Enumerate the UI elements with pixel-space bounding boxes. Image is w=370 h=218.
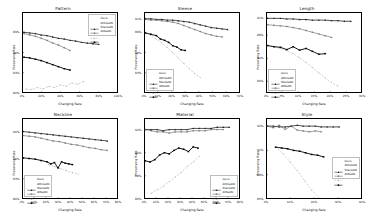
plot-area: Ours AttnGAN StarGAN AttGAN: [144, 118, 240, 199]
x-tick-label: 30%: [55, 200, 61, 204]
legend-label-attgan: AttGAN: [101, 29, 112, 33]
y-tick-label: 91%: [257, 16, 263, 20]
legend-swatch-attgan-icon: [27, 190, 36, 194]
legend-label-attgan: AttGAN: [345, 172, 356, 176]
y-tick-label: 90%: [13, 130, 19, 134]
y-axis-label: Preserving Rate: [12, 150, 16, 175]
legend-swatch-attgan-icon: [334, 172, 343, 176]
x-tick-label: 70%: [225, 200, 231, 204]
chart-panel-pattern: Pattern80%83%86%89%Preserving Rate Ours …: [2, 4, 124, 110]
chart-panel-sleeve: Sleeve83%86%89%91%Preserving Rate Ours A…: [124, 4, 246, 110]
plot-area: Ours AttnGAN StarGAN AttGAN: [266, 12, 362, 93]
x-tick-label: 10%: [153, 200, 159, 204]
y-axis-label: Preserving Rate: [12, 44, 16, 69]
x-tick-label: 10%: [287, 200, 293, 204]
x-tick-label: 50%: [79, 200, 85, 204]
legend: Ours AttnGAN StarGAN AttGAN: [332, 157, 360, 179]
y-tick-label: 89%: [13, 30, 19, 34]
x-tick-label: 10%: [295, 94, 301, 98]
x-axis-ticks: 0%10%20%30%40%: [266, 200, 362, 205]
x-axis-ticks: 0%10%20%30%40%50%60%70%80%: [144, 200, 240, 205]
x-tick-label: 40%: [67, 200, 73, 204]
legend-swatch-attgan-icon: [149, 84, 158, 88]
x-tick-label: 20%: [165, 200, 171, 204]
panel-title: Length: [246, 6, 368, 11]
x-tick-label: 15%: [311, 94, 317, 98]
x-tick-label: 60%: [91, 200, 97, 204]
x-tick-label: 60%: [213, 200, 219, 204]
panel-title: Neckline: [2, 112, 124, 117]
x-axis-label: Changing Rate: [266, 102, 362, 106]
chart-panel-style: Style85%88%91%94%Preserving Rate Ours At…: [246, 110, 368, 216]
legend: Ours AttnGAN StarGAN AttGAN: [146, 69, 174, 91]
legend-item-attgan: AttGAN: [212, 190, 235, 194]
legend-item-attgan: AttGAN: [149, 84, 172, 88]
panel-title: Sleeve: [124, 6, 246, 11]
legend: Ours AttnGAN StarGAN AttGAN: [268, 69, 296, 91]
figure-grid: Pattern80%83%86%89%Preserving Rate Ours …: [0, 0, 370, 218]
y-tick-label: 85%: [257, 197, 263, 201]
plot-area: Ours AttnGAN StarGAN AttGAN: [22, 118, 118, 199]
x-tick-label: 40%: [189, 200, 195, 204]
x-axis-ticks: 0%20%40%60%80%100%: [22, 94, 118, 99]
plot-area: Ours AttnGAN StarGAN AttGAN: [266, 118, 362, 199]
x-tick-label: 40%: [359, 200, 365, 204]
x-tick-label: 0%: [142, 94, 147, 98]
legend-swatch-attgan-icon: [271, 84, 280, 88]
x-tick-label: 50%: [201, 200, 207, 204]
legend-swatch-attgan-icon: [90, 29, 99, 33]
x-tick-label: 80%: [237, 200, 243, 204]
x-axis-label: Changing Rate: [144, 102, 240, 106]
y-tick-label: 89%: [135, 30, 141, 34]
y-tick-label: 91%: [135, 17, 141, 21]
x-tick-label: 0%: [142, 200, 147, 204]
y-axis-label: Preserving Rate: [256, 150, 260, 175]
legend: Ours AttnGAN StarGAN AttGAN: [88, 14, 116, 36]
x-tick-label: 30%: [359, 94, 365, 98]
legend-swatch-attgan-icon: [212, 190, 221, 194]
y-tick-label: 80%: [257, 79, 263, 83]
panel-title: Material: [124, 112, 246, 117]
x-tick-label: 0%: [264, 94, 269, 98]
x-tick-label: 30%: [335, 200, 341, 204]
x-tick-label: 60%: [223, 94, 229, 98]
y-tick-label: 80%: [13, 91, 19, 95]
x-tick-label: 20%: [168, 94, 174, 98]
plot-area: Ours AttnGAN StarGAN AttGAN: [144, 12, 240, 93]
legend: Ours AttnGAN StarGAN AttGAN: [210, 175, 238, 197]
y-tick-label: 86%: [135, 197, 141, 201]
x-axis-ticks: 0%10%20%30%40%50%60%70%: [144, 94, 240, 99]
x-tick-label: 30%: [177, 200, 183, 204]
legend: Ours AttnGAN StarGAN AttGAN: [24, 175, 52, 197]
legend-label-attgan: AttGAN: [223, 190, 234, 194]
y-tick-label: 80%: [13, 197, 19, 201]
legend-item-attgan: AttGAN: [27, 190, 50, 194]
x-tick-label: 25%: [343, 94, 349, 98]
x-tick-label: 0%: [20, 200, 25, 204]
x-tick-label: 80%: [96, 94, 102, 98]
y-tick-label: 94%: [257, 124, 263, 128]
x-tick-label: 20%: [311, 200, 317, 204]
x-tick-label: 40%: [57, 94, 63, 98]
y-axis-label: Preserving Rate: [256, 44, 260, 69]
chart-panel-neckline: Neckline80%83%86%90%Preserving Rate Ours…: [2, 110, 124, 216]
x-axis-label: Changing Rate: [22, 208, 118, 212]
y-tick-label: 92%: [135, 128, 141, 132]
x-axis-label: Changing Rate: [22, 102, 118, 106]
x-tick-label: 40%: [196, 94, 202, 98]
x-axis-ticks: 0%10%20%30%40%50%60%70%80%: [22, 200, 118, 205]
x-tick-label: 0%: [20, 94, 25, 98]
legend-item-attgan: AttGAN: [271, 84, 294, 88]
x-axis-ticks: 0%5%10%15%20%25%30%: [266, 94, 362, 99]
x-tick-label: 10%: [154, 94, 160, 98]
chart-panel-length: Length80%84%88%91%Preserving Rate Ours A…: [246, 4, 368, 110]
x-tick-label: 70%: [103, 200, 109, 204]
x-tick-label: 20%: [327, 94, 333, 98]
x-axis-label: Changing Rate: [144, 208, 240, 212]
x-tick-label: 60%: [76, 94, 82, 98]
legend-label-attgan: AttGAN: [281, 84, 292, 88]
x-tick-label: 10%: [31, 200, 37, 204]
x-tick-label: 80%: [115, 200, 121, 204]
panel-title: Pattern: [2, 6, 124, 11]
y-axis-label: Preserving Rate: [134, 44, 138, 69]
